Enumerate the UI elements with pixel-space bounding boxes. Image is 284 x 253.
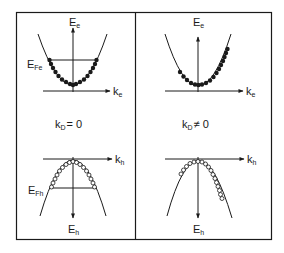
parabola-curve (167, 160, 232, 218)
energy-axis-label: Eh (193, 223, 204, 236)
open-hole-circles (179, 160, 224, 201)
band-diagram-figure: Ee ke EFe kD= 0 kh Eh EFh (0, 0, 284, 253)
fermi-level-label: EFe (27, 58, 43, 71)
drift-wavevector-condition: kD= 0 (55, 118, 82, 131)
drift-wavevector-condition: kD≠ 0 (182, 118, 209, 131)
momentum-axis-label: kh (115, 153, 125, 166)
energy-axis-label: Ee (69, 16, 80, 29)
left-valence-band: kh Eh EFh (28, 153, 125, 236)
right-panel: Ee ke kD≠ 0 kh Eh (165, 16, 257, 236)
left-conduction-band: Ee ke EFe (27, 16, 123, 98)
energy-axis-label: Ee (193, 16, 204, 29)
filled-electron-dots (178, 47, 230, 87)
energy-axis-label: Eh (68, 223, 79, 236)
momentum-axis-label: kh (247, 153, 257, 166)
right-valence-band: kh Eh (165, 153, 257, 236)
right-conduction-band: Ee ke (165, 16, 256, 98)
left-panel: Ee ke EFe kD= 0 kh Eh EFh (27, 16, 125, 236)
momentum-axis-label: ke (246, 85, 256, 98)
fermi-level-label: EFh (28, 184, 44, 197)
momentum-axis-label: ke (113, 85, 123, 98)
